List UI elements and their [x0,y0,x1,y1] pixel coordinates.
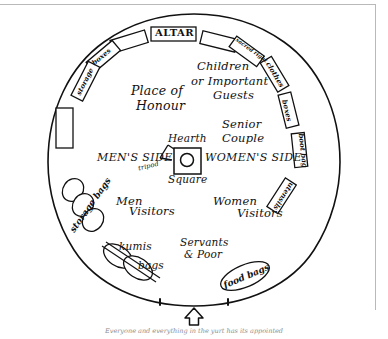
label-men-visitors: Visitors [129,206,175,218]
label-place-of-honour-line1: Place of [131,85,183,98]
label-womens-side: WOMEN'S SIDE [205,152,302,163]
label-place-of-honour-line2: Honour [136,100,185,113]
figure-caption: Everyone and everything in the yurt has … [0,327,388,335]
label-square: Square [168,174,207,185]
label-kumis-bags: bags [138,260,164,271]
entrance-arrow-icon [185,308,203,325]
label-children-line1: Children [197,61,249,73]
label-servants: Servants [180,237,229,248]
label-senior-line1: Senior [222,119,261,131]
label-altar: ALTAR [155,28,194,38]
label-children-line2: or Important [191,76,268,88]
label-children-line3: Guests [213,90,254,102]
diagram-vector-layer [0,0,388,339]
shape-hearth-square [174,148,201,174]
yurt-diagram: ALTAR Place of Honour Children or Import… [0,0,388,339]
label-hearth: Hearth [168,133,207,144]
box-left-empty [56,108,73,148]
label-servants-poor: & Poor [184,249,222,260]
label-mens-side: MEN'S SIDE [97,152,173,163]
label-senior-line2: Couple [222,133,264,145]
label-kumis: kumis [119,241,152,252]
